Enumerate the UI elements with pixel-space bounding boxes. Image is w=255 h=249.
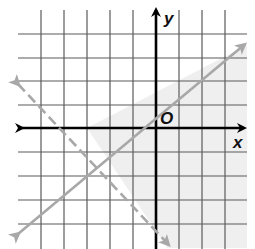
y-axis-label: y [163, 9, 175, 28]
x-axis-label: x [232, 133, 244, 152]
origin-label: O [160, 109, 173, 128]
coordinate-plane: y x O [0, 0, 255, 249]
shaded-region [87, 45, 247, 249]
